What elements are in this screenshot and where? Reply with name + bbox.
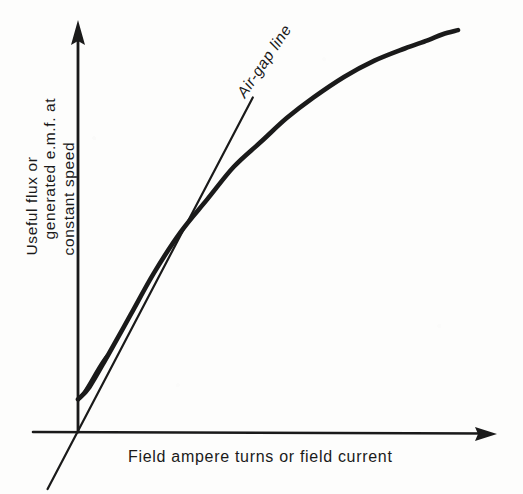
x-axis-line [33, 432, 488, 434]
y-axis-label-line-3: constant speed [59, 35, 77, 255]
x-axis-label: Field ampere turns or field current [128, 448, 393, 467]
magnetization-curve [78, 30, 458, 399]
y-axis-label-line-2: generated e.m.f. at [41, 35, 59, 255]
x-axis-arrowhead-icon [475, 427, 497, 441]
magnetization-curve-figure: Useful flux or generated e.m.f. at const… [0, 0, 523, 494]
y-axis-label-line-1: Useful flux or [23, 35, 41, 255]
residual-flux-foot [78, 355, 108, 400]
y-axis-label: Useful flux or generated e.m.f. at const… [23, 35, 78, 255]
x-axis [33, 427, 497, 441]
